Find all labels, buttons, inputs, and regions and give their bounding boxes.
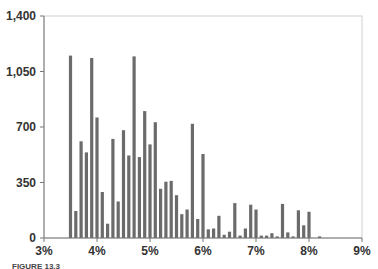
y-tick-label: 700 [2, 120, 36, 134]
histogram-bar [106, 224, 109, 238]
x-tick-label: 3% [29, 244, 59, 258]
figure-caption: FIGURE 13.3 [12, 262, 60, 269]
histogram-chart: 03507001,0501,400 3%4%5%6%7%8%9% [0, 0, 378, 269]
histogram-bar [302, 225, 305, 238]
histogram-bar [175, 195, 178, 238]
histogram-bar [138, 157, 141, 238]
y-tick-label: 1,400 [2, 9, 36, 23]
histogram-bar [307, 212, 310, 238]
histogram-bar [95, 118, 98, 239]
histogram-bar [69, 56, 72, 238]
histogram-bar [143, 111, 146, 238]
plot-area [0, 0, 378, 269]
x-tick-label: 6% [188, 244, 218, 258]
histogram-bar [297, 210, 300, 238]
histogram-bar [286, 232, 289, 238]
histogram-bar [164, 182, 167, 238]
x-tick-label: 7% [241, 244, 271, 258]
histogram-bar [233, 203, 236, 238]
histogram-bar [101, 192, 104, 238]
histogram-bar [270, 233, 273, 238]
x-tick-label: 5% [135, 244, 165, 258]
histogram-bar [254, 210, 257, 239]
y-tick-label: 350 [2, 176, 36, 190]
histogram-bar [228, 232, 231, 238]
histogram-bar [191, 124, 194, 238]
histogram-bar [133, 56, 136, 238]
histogram-bar [249, 205, 252, 238]
histogram-bar [117, 202, 120, 239]
histogram-bar [186, 210, 189, 239]
y-tick-label: 1,050 [2, 65, 36, 79]
histogram-bar [85, 152, 88, 238]
histogram-bar [170, 181, 173, 238]
histogram-bar [90, 58, 93, 238]
histogram-bar [148, 144, 151, 238]
histogram-bar [281, 204, 284, 238]
histogram-bar [244, 229, 247, 239]
histogram-bar [80, 141, 83, 238]
histogram-bar [127, 156, 130, 239]
y-tick-label: 0 [2, 231, 36, 245]
histogram-bar [74, 211, 77, 238]
histogram-bar [201, 154, 204, 238]
x-tick-label: 4% [82, 244, 112, 258]
histogram-bar [122, 130, 125, 238]
x-tick-label: 8% [294, 244, 324, 258]
histogram-bar [111, 139, 114, 238]
histogram-bar [212, 229, 215, 239]
histogram-bar [207, 229, 210, 238]
histogram-bar [180, 214, 183, 238]
histogram-bar [196, 219, 199, 238]
histogram-bar [217, 216, 220, 238]
histogram-bar [154, 122, 157, 238]
histogram-bar [159, 189, 162, 238]
x-tick-label: 9% [347, 244, 377, 258]
